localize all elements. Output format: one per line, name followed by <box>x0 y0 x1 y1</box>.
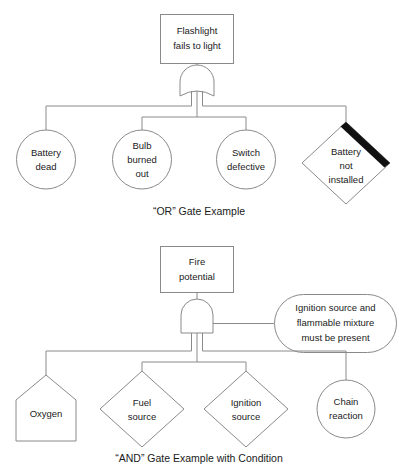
basic-event-switch-defective[interactable]: Switch defective <box>217 130 276 189</box>
switch-defective-line2: defective <box>227 161 265 172</box>
fault-tree-svg: Flashlight fails to light <box>0 0 399 469</box>
ignition-source-diamond <box>204 371 288 447</box>
bulb-burned-out-line1: Bulb <box>132 140 151 151</box>
undeveloped-event-fuel-source[interactable]: Fuel source <box>100 371 184 447</box>
oxygen-line1: Oxygen <box>30 408 63 419</box>
battery-not-installed-line1: Battery <box>331 146 361 157</box>
basic-event-chain-reaction[interactable]: Chain reaction <box>317 380 375 438</box>
bulb-burned-out-line3: out <box>135 168 149 179</box>
battery-dead-line2: dead <box>35 161 56 172</box>
condition-ignition-flammable[interactable]: Ignition source and flammable mixture mu… <box>275 295 397 353</box>
top-event-line2: fails to light <box>173 40 221 51</box>
undeveloped-event-battery-not-installed[interactable]: Battery not installed <box>302 122 390 204</box>
chain-reaction-line2: reaction <box>329 410 363 421</box>
fuel-source-diamond <box>100 371 184 447</box>
fuel-source-line1: Fuel <box>133 397 151 408</box>
and-gate-caption: “AND” Gate Example with Condition <box>115 452 283 464</box>
undeveloped-event-oxygen[interactable]: Oxygen <box>16 375 76 441</box>
battery-not-installed-line2: not <box>339 160 353 171</box>
chain-reaction-line1: Chain <box>334 396 359 407</box>
and-gate-diagram: Fire potential Ignition source and flamm… <box>16 247 397 464</box>
condition-line3: must be present <box>301 332 369 343</box>
switch-defective-line1: Switch <box>232 147 260 158</box>
fire-potential-line1: Fire <box>189 256 205 267</box>
fault-tree-diagram: Flashlight fails to light <box>0 0 399 469</box>
switch-defective-circle <box>217 130 276 189</box>
and-gate-shape <box>181 299 213 333</box>
undeveloped-event-ignition-source[interactable]: Ignition source <box>204 371 288 447</box>
or-gate-diagram: Flashlight fails to light <box>17 15 391 217</box>
condition-line2: flammable mixture <box>297 317 375 328</box>
fuel-source-line2: source <box>128 411 157 422</box>
basic-event-bulb-burned-out[interactable]: Bulb burned out <box>113 130 172 189</box>
condition-line1: Ignition source and <box>295 302 375 313</box>
top-event-line1: Flashlight <box>177 25 218 36</box>
ignition-source-line1: Ignition <box>231 397 262 408</box>
ignition-source-line2: source <box>232 411 261 422</box>
fire-potential-box <box>161 247 234 293</box>
battery-dead-line1: Battery <box>31 147 61 158</box>
top-event-flashlight[interactable]: Flashlight fails to light <box>161 15 234 64</box>
bulb-burned-out-line2: burned <box>127 154 157 165</box>
and-gate-symbol[interactable] <box>181 299 213 333</box>
basic-event-battery-dead[interactable]: Battery dead <box>17 130 76 189</box>
battery-dead-circle <box>17 130 76 189</box>
battery-not-installed-line3: installed <box>329 174 364 185</box>
or-gate-caption: “OR” Gate Example <box>153 205 245 217</box>
fire-potential-line2: potential <box>179 271 215 282</box>
top-event-fire-potential[interactable]: Fire potential <box>161 247 234 293</box>
